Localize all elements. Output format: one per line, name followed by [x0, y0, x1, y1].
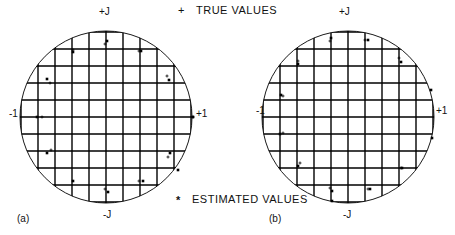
panel-b-caption: (b) [269, 213, 281, 224]
legend: + TRUE VALUES * ESTIMATED VALUES [176, 4, 308, 206]
estimated-value-marker [279, 133, 282, 136]
true-value-marker [167, 156, 170, 159]
estimated-value-marker [177, 169, 180, 172]
panel-b-grid [262, 31, 434, 203]
legend-estimated-label: ESTIMATED VALUES [192, 193, 308, 205]
panel-a: +J -J -1 +1 (a) [9, 6, 208, 224]
estimated-value-marker [330, 37, 333, 40]
legend-estimated-marker: * [176, 194, 181, 206]
estimated-value-marker [169, 152, 172, 155]
panel-a-label-top: +J [99, 6, 110, 17]
true-value-marker [41, 116, 44, 119]
panel-b-points [279, 37, 434, 203]
estimated-value-marker [369, 188, 372, 191]
panel-a-label-bottom: -J [103, 209, 111, 220]
true-value-marker [49, 82, 52, 85]
estimated-value-marker [280, 94, 283, 97]
estimated-value-marker [331, 190, 334, 193]
estimated-value-marker [192, 116, 195, 119]
true-value-marker [364, 39, 367, 42]
estimated-value-marker [297, 165, 300, 168]
estimated-value-marker [72, 51, 75, 54]
estimated-value-marker [107, 191, 110, 194]
estimated-value-marker [36, 116, 39, 119]
panel-a-label-right: +1 [196, 108, 208, 119]
panel-a-grid [20, 31, 192, 203]
true-value-marker [398, 57, 401, 60]
estimated-value-marker [431, 137, 434, 140]
estimated-value-marker [46, 152, 49, 155]
estimated-value-marker [46, 78, 49, 81]
legend-true-label: TRUE VALUES [196, 4, 277, 16]
estimated-value-marker [331, 200, 334, 203]
estimated-value-marker [400, 61, 403, 64]
panel-b-label-right: +1 [436, 105, 448, 116]
estimated-value-marker [168, 79, 171, 82]
estimated-value-marker [142, 180, 145, 183]
estimated-value-marker [106, 40, 109, 43]
panel-a-label-left: -1 [9, 108, 18, 119]
estimated-value-marker [140, 50, 143, 53]
estimated-value-marker [367, 39, 370, 42]
true-value-marker [166, 75, 169, 78]
smith-chart-figure: +J -J -1 +1 (a) +J -J -1 +1 (b) + TRUE V… [0, 0, 455, 235]
panel-a-caption: (a) [17, 213, 29, 224]
panel-b-label-bottom: -J [343, 209, 351, 220]
panel-b-label-left: -1 [256, 105, 265, 116]
estimated-value-marker [430, 89, 433, 92]
panel-b-label-top: +J [339, 6, 350, 17]
legend-true-marker: + [178, 4, 185, 16]
estimated-value-marker [401, 167, 404, 170]
estimated-value-marker [72, 180, 75, 183]
true-value-marker [299, 162, 302, 165]
panel-b: +J -J -1 +1 (b) [256, 6, 448, 224]
estimated-value-marker [297, 63, 300, 66]
